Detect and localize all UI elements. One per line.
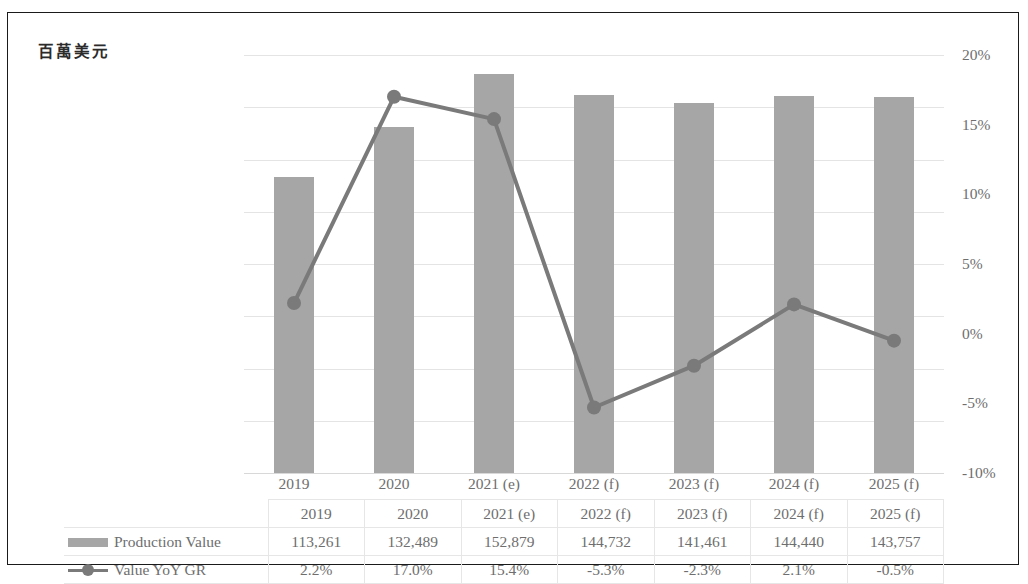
table-header-cell: 2024 (f): [751, 500, 848, 528]
table-cell-production-value: 144,440: [751, 528, 848, 556]
table-row-value-yoy-gr: Value YoY GR 2.2%17.0%15.4%-5.3%-2.3%2.1…: [64, 556, 944, 584]
line-marker-swatch-icon: [68, 564, 108, 576]
table-cell-production-value: 113,261: [268, 528, 365, 556]
table-cell-value-yoy-gr: -2.3%: [654, 556, 751, 584]
table-cell-value-yoy-gr: 17.0%: [365, 556, 462, 584]
table-header-cell: 2019: [268, 500, 365, 528]
table-header-cell: 2025 (f): [847, 500, 944, 528]
line-series-value-yoy-gr: [244, 55, 944, 473]
axis-unit-title: 百萬美元: [38, 39, 110, 61]
table-row-production-value: Production Value 113,261132,489152,87914…: [64, 528, 944, 556]
table-cell-production-value: 143,757: [847, 528, 944, 556]
line-marker: [887, 334, 901, 348]
right-axis-tick-label: 15%: [962, 116, 1028, 134]
legend-item-value-yoy-gr[interactable]: Value YoY GR: [64, 556, 268, 584]
line-path: [294, 97, 894, 408]
data-table-wrap: 201920202021 (e)2022 (f)2023 (f)2024 (f)…: [64, 499, 944, 584]
line-marker: [387, 90, 401, 104]
table-cell-production-value: 132,489: [365, 528, 462, 556]
gridline: [244, 473, 944, 474]
line-marker: [287, 296, 301, 310]
chart-frame: 百萬美元 160,000140,000120,000100,00080,0006…: [7, 12, 1019, 565]
right-axis-tick-label: -10%: [962, 464, 1028, 482]
plot-area: 160,000140,000120,000100,00080,00060,000…: [244, 55, 944, 473]
right-axis-tick-label: 0%: [962, 325, 1028, 343]
x-axis-label: 2022 (f): [544, 475, 644, 493]
x-axis-label: 2023 (f): [644, 475, 744, 493]
table-cell-value-yoy-gr: 2.1%: [751, 556, 848, 584]
line-marker: [487, 112, 501, 126]
x-axis-label: 2025 (f): [844, 475, 944, 493]
table-header-cell: 2023 (f): [654, 500, 751, 528]
right-axis-tick-label: 10%: [962, 185, 1028, 203]
table-header-cell: 2022 (f): [558, 500, 655, 528]
data-table: 201920202021 (e)2022 (f)2023 (f)2024 (f)…: [64, 499, 944, 584]
right-axis-tick-label: 20%: [962, 46, 1028, 64]
x-axis-label: 2024 (f): [744, 475, 844, 493]
right-axis-tick-label: -5%: [962, 394, 1028, 412]
legend-label-value-yoy-gr: Value YoY GR: [114, 561, 206, 578]
legend-header-spacer: [64, 500, 268, 528]
x-axis-label: 2020: [344, 475, 444, 493]
table-cell-value-yoy-gr: 15.4%: [461, 556, 558, 584]
table-cell-value-yoy-gr: 2.2%: [268, 556, 365, 584]
line-marker: [687, 359, 701, 373]
line-marker: [787, 297, 801, 311]
legend-item-production-value[interactable]: Production Value: [64, 528, 268, 556]
table-header-cell: 2020: [365, 500, 462, 528]
table-cell-production-value: 144,732: [558, 528, 655, 556]
x-axis-label: 2019: [244, 475, 344, 493]
table-cell-production-value: 141,461: [654, 528, 751, 556]
right-axis-tick-label: 5%: [962, 255, 1028, 273]
legend-label-production-value: Production Value: [114, 533, 221, 550]
line-marker: [587, 401, 601, 415]
bar-swatch-icon: [68, 538, 108, 547]
table-cell-value-yoy-gr: -5.3%: [558, 556, 655, 584]
x-axis-category-labels: 201920202021 (e)2022 (f)2023 (f)2024 (f)…: [244, 475, 944, 501]
x-axis-label: 2021 (e): [444, 475, 544, 493]
table-cell-value-yoy-gr: -0.5%: [847, 556, 944, 584]
table-cell-production-value: 152,879: [461, 528, 558, 556]
table-header-cell: 2021 (e): [461, 500, 558, 528]
table-row-header: 201920202021 (e)2022 (f)2023 (f)2024 (f)…: [64, 500, 944, 528]
